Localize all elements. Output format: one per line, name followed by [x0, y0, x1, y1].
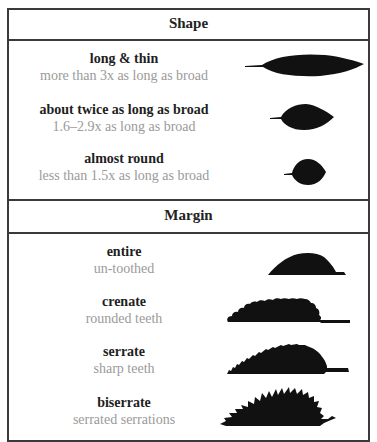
long-thin-leaf-icon	[245, 50, 365, 80]
divider	[7, 232, 370, 234]
item-description: less than 1.5x as long as broad	[9, 167, 239, 184]
margin-item-biserrate: biserrate serrated serrations	[9, 394, 239, 428]
ovate-leaf-icon	[270, 102, 336, 132]
entire-margin-leaf-icon	[266, 251, 348, 277]
margin-item-entire: entire un-toothed	[9, 243, 239, 277]
shape-item-twice-as-long: about twice as long as broad 1.6–2.9x as…	[9, 101, 239, 135]
crenate-margin-leaf-icon	[226, 294, 352, 324]
section-header-shape: Shape	[9, 15, 368, 32]
item-name: long & thin	[9, 50, 239, 67]
item-description: 1.6–2.9x as long as broad	[9, 118, 239, 135]
divider	[7, 199, 370, 201]
margin-item-serrate: serrate sharp teeth	[9, 343, 239, 377]
item-description: serrated serrations	[9, 411, 239, 428]
item-name: crenate	[9, 293, 239, 310]
serrate-margin-leaf-icon	[226, 340, 352, 376]
shape-item-long-thin: long & thin more than 3x as long as broa…	[9, 50, 239, 84]
item-name: about twice as long as broad	[9, 101, 239, 118]
margin-item-crenate: crenate rounded teeth	[9, 293, 239, 327]
shape-item-almost-round: almost round less than 1.5x as long as b…	[9, 150, 239, 184]
round-leaf-icon	[284, 157, 328, 187]
divider	[7, 39, 370, 41]
item-description: more than 3x as long as broad	[9, 67, 239, 84]
item-name: biserrate	[9, 394, 239, 411]
item-name: almost round	[9, 150, 239, 167]
item-description: sharp teeth	[9, 360, 239, 377]
item-name: serrate	[9, 343, 239, 360]
section-header-margin: Margin	[9, 207, 368, 224]
item-name: entire	[9, 243, 239, 260]
item-description: un-toothed	[9, 260, 239, 277]
item-description: rounded teeth	[9, 310, 239, 327]
biserrate-margin-leaf-icon	[220, 383, 350, 427]
